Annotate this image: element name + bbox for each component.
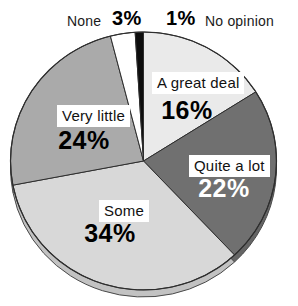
outside-value-no-opinion: 1% [166, 7, 196, 29]
slice-value-quite-a-lot: 22% [197, 175, 251, 203]
slice-label-a-great-deal: A great deal [152, 72, 244, 94]
pie-chart: None 3% 1% No opinion A great deal 16% Q… [0, 0, 298, 306]
slice-label-very-little: Very little [57, 105, 130, 127]
slice-value-a-great-deal: 16% [157, 97, 217, 125]
slice-value-very-little: 24% [58, 127, 110, 155]
slice-value-some: 34% [80, 220, 140, 248]
outside-label-no-opinion: No opinion [205, 13, 274, 30]
outside-label-none: None [67, 13, 101, 30]
pie-svg [0, 0, 298, 306]
outside-value-none: 3% [112, 7, 142, 29]
